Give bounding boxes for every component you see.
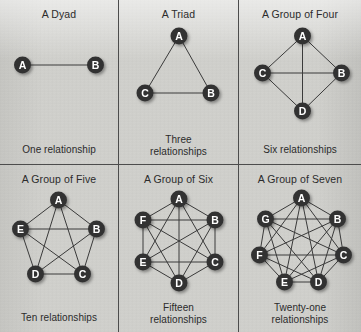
node-label: A [298, 191, 306, 203]
node-label: C [259, 66, 267, 78]
caption-line: Fifteen [163, 302, 194, 313]
figure-grid: A Dyad AB One relationship A Triad ABC T… [0, 0, 361, 332]
caption-line: Six relationships [263, 144, 337, 155]
cell-group-of-six: A Group of Six ABCDEF Fifteenrelationshi… [119, 165, 239, 332]
graph-node: E [12, 220, 29, 237]
graph-edge [145, 36, 179, 93]
node-label: D [32, 267, 40, 279]
cell-dyad: A Dyad AB One relationship [0, 0, 119, 165]
graph-node: B [329, 210, 346, 227]
relationship-growth-figure: A Dyad AB One relationship A Triad ABC T… [0, 0, 361, 332]
node-label: B [207, 86, 215, 98]
graph-node: D [294, 102, 311, 119]
graph-node: B [88, 220, 105, 237]
graph-edge [143, 220, 179, 283]
graph-node: C [254, 64, 271, 81]
cell-title: A Group of Six [144, 174, 213, 186]
graph-group-of-four: ABCD [239, 21, 361, 144]
cell-caption: Twenty-onerelationships [268, 302, 333, 332]
graph-node: F [135, 211, 152, 228]
node-label: B [211, 213, 219, 225]
cell-caption: Threerelationships [146, 134, 211, 164]
graph-node: E [276, 273, 293, 290]
caption-line: relationships [272, 314, 329, 325]
node-label: A [175, 192, 183, 204]
node-label: C [141, 86, 149, 98]
graph-canvas: ABCDE [0, 186, 118, 312]
graph-canvas: ABCD [239, 21, 361, 144]
graph-node: A [171, 190, 188, 207]
graph-canvas: ABCDEFG [239, 186, 361, 302]
node-label: B [93, 222, 101, 234]
graph-edge [179, 36, 211, 93]
graph-canvas: ABC [119, 21, 238, 134]
cell-title: A Group of Four [262, 9, 338, 21]
graph-node: D [27, 265, 44, 282]
cell-title: A Dyad [42, 9, 76, 21]
node-label: F [256, 248, 263, 260]
graph-node: C [74, 265, 91, 282]
graph-node: E [135, 253, 152, 270]
graph-dyad: AB [0, 21, 118, 144]
caption-line: One relationship [22, 144, 96, 155]
graph-node: F [251, 246, 268, 263]
node-label: B [338, 66, 346, 78]
cell-title: A Group of Five [22, 174, 96, 186]
graph-node: B [203, 84, 220, 101]
node-label: A [299, 29, 307, 41]
node-label: C [211, 255, 219, 267]
graph-group-of-seven: ABCDEFG [239, 186, 361, 302]
graph-node: C [207, 253, 224, 270]
graph-edge [59, 200, 83, 274]
graph-node: A [293, 189, 310, 206]
caption-line: relationships [150, 146, 207, 157]
node-label: C [340, 248, 348, 260]
node-label: E [17, 222, 24, 234]
node-label: A [19, 58, 27, 70]
node-label: D [299, 104, 307, 116]
cell-caption: Fifteenrelationships [146, 302, 211, 332]
caption-line: relationships [150, 314, 207, 325]
node-label: G [261, 212, 269, 224]
node-label: F [140, 213, 147, 225]
cell-caption: Six relationships [259, 144, 341, 165]
graph-node: B [333, 64, 350, 81]
cell-title: A Triad [162, 9, 195, 21]
graph-canvas: AB [0, 21, 118, 144]
graph-edge [21, 229, 83, 274]
node-label: E [281, 275, 288, 287]
node-label: B [334, 212, 342, 224]
node-label: D [175, 276, 183, 288]
cell-caption: Ten relationships [17, 312, 101, 332]
graph-node: B [87, 56, 104, 73]
node-label: A [175, 29, 183, 41]
cell-caption: One relationship [18, 144, 100, 165]
node-label: E [139, 255, 146, 267]
node-label: C [79, 267, 87, 279]
graph-node: A [14, 56, 31, 73]
node-label: B [92, 58, 100, 70]
graph-node: B [207, 211, 224, 228]
cell-group-of-five: A Group of Five ABCDE Ten relationships [0, 165, 119, 332]
graph-node: A [50, 191, 67, 208]
graph-canvas: ABCDEF [119, 186, 238, 302]
graph-triad: ABC [119, 21, 238, 134]
graph-group-of-six: ABCDEF [119, 186, 238, 302]
graph-edge [36, 200, 59, 274]
graph-node: A [171, 27, 188, 44]
node-label: A [55, 193, 63, 205]
cell-title: A Group of Seven [258, 174, 343, 186]
graph-node: A [294, 27, 311, 44]
graph-group-of-five: ABCDE [0, 186, 118, 312]
graph-node: C [335, 246, 352, 263]
caption-line: Ten relationships [21, 312, 97, 323]
cell-group-of-four: A Group of Four ABCD Six relationships [239, 0, 361, 165]
graph-node: D [310, 273, 327, 290]
graph-node: D [171, 274, 188, 291]
node-label: D [315, 275, 323, 287]
caption-line: Twenty-one [274, 302, 326, 313]
graph-node: G [257, 210, 274, 227]
cell-group-of-seven: A Group of Seven ABCDEFG Twenty-onerelat… [239, 165, 361, 332]
graph-node: C [137, 84, 154, 101]
cell-triad: A Triad ABC Threerelationships [119, 0, 239, 165]
